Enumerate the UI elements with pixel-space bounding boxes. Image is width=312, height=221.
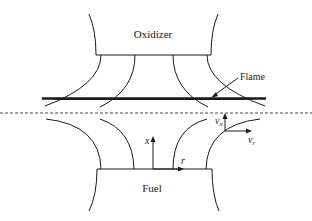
velocity-vectors	[223, 113, 253, 134]
flame-sheet	[40, 98, 267, 100]
r-axis-label: r	[181, 155, 185, 166]
vx-arrowhead-icon	[223, 113, 228, 119]
vr-label: vr	[248, 134, 255, 147]
oxidizer-label: Oxidizer	[134, 28, 173, 40]
vr-arrowhead-icon	[246, 129, 252, 134]
counterflow-flame-diagram: Oxidizer Flame Fuel x r	[0, 0, 312, 221]
vx-label: vx	[215, 115, 223, 128]
flame-leader-arrow	[211, 78, 238, 98]
flame-label: Flame	[240, 71, 266, 82]
x-axis-arrowhead-icon	[151, 136, 156, 142]
fuel-label: Fuel	[142, 182, 162, 194]
x-axis-label: x	[144, 135, 150, 146]
r-axis-arrowhead-icon	[178, 167, 184, 172]
